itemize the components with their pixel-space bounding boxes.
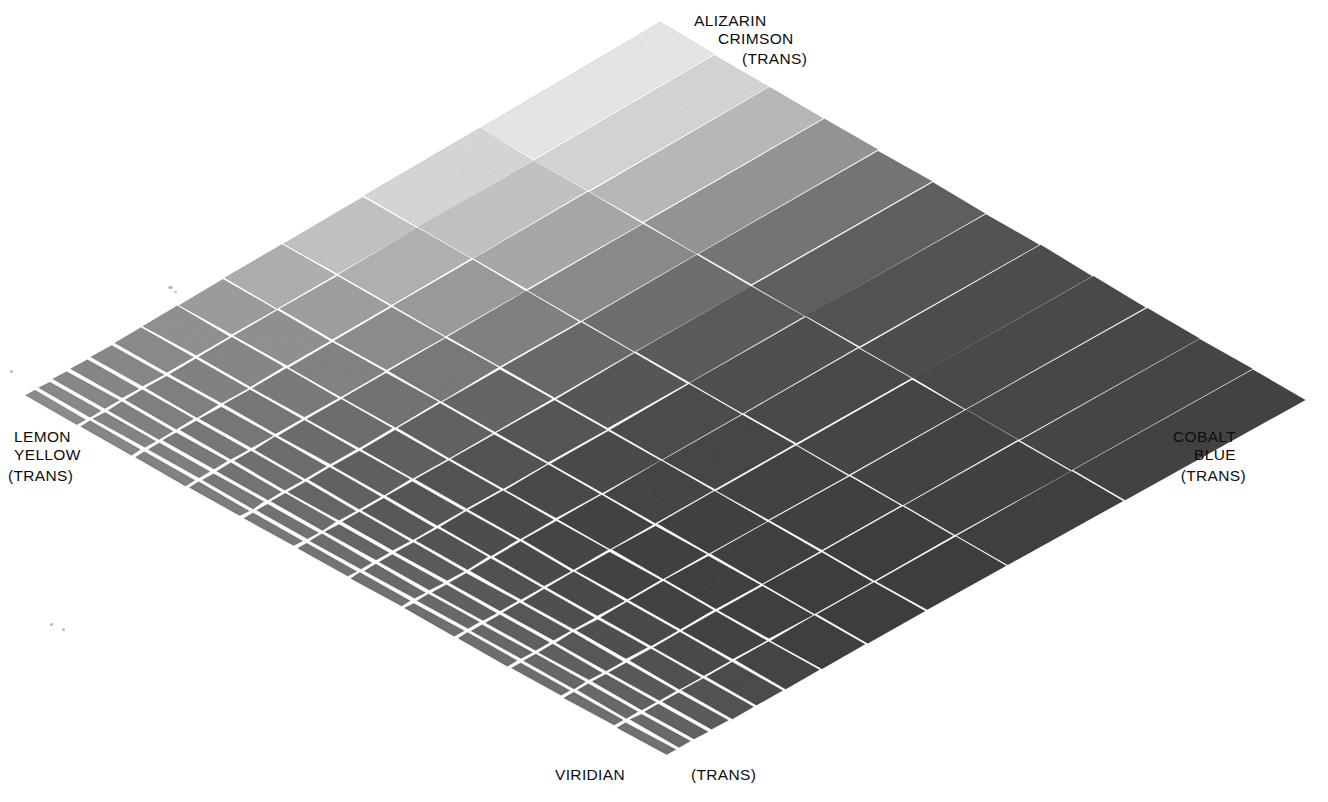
dust-speck	[174, 291, 177, 293]
perspective-grid	[0, 0, 1328, 802]
label-viridian-line1: VIRIDIAN	[555, 766, 625, 784]
label-cobalt-line2: BLUE	[1173, 446, 1236, 464]
label-viridian-trans: (TRANS)	[691, 766, 756, 784]
dust-speck	[168, 286, 173, 289]
label-cobalt-line1: COBALT	[1173, 428, 1236, 446]
dust-speck	[62, 628, 65, 631]
label-lemon-line2: YELLOW	[14, 446, 81, 464]
dust-speck	[50, 623, 53, 626]
label-viridian-trans-text: (TRANS)	[691, 766, 756, 784]
dust-speck	[10, 370, 13, 373]
label-lemon-line1: LEMON	[14, 428, 81, 446]
label-cobalt-blue: COBALT BLUE (TRANS)	[1173, 428, 1246, 485]
label-alizarin-crimson: ALIZARIN CRIMSON (TRANS)	[694, 12, 807, 68]
label-alizarin-trans: (TRANS)	[742, 50, 807, 68]
color-chart-plate: ALIZARIN CRIMSON (TRANS) LEMON YELLOW (T…	[0, 0, 1328, 802]
label-alizarin-line1: ALIZARIN	[694, 12, 807, 30]
label-viridian: VIRIDIAN	[555, 766, 625, 784]
label-lemon-yellow: LEMON YELLOW (TRANS)	[8, 428, 81, 485]
label-lemon-trans: (TRANS)	[8, 467, 81, 485]
label-alizarin-line2: CRIMSON	[718, 30, 807, 48]
label-cobalt-trans: (TRANS)	[1173, 467, 1246, 485]
